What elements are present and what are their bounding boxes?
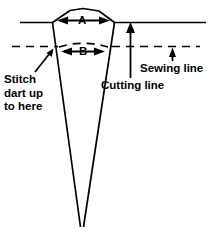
dimension-b-label: B [79,45,87,57]
sewing-line-label: Sewing line [140,62,203,76]
dimension-b-arrowhead-right [94,48,105,56]
stitch-note-line-3: to here [4,100,43,114]
stitch-note-pointer-arrow [35,49,54,73]
sewing-line-pointer-arrowhead [169,48,176,58]
diagram-canvas [0,0,221,239]
cutting-line-pointer-arrowhead [126,22,135,33]
dimension-b-arrowhead-left [61,48,72,56]
cutting-line-label: Cutting line [101,79,164,93]
dimension-a-label: A [78,14,86,26]
stitch-note-line-2: dart up [4,87,43,101]
sewing-line-dashed [12,43,200,47]
stitch-note-pointer-shaft [35,53,50,72]
stitch-note-line-1: Stitch [4,73,43,87]
dart-diagram: A B Stitch dart up to here Cutting line … [0,0,221,239]
stitch-note-label: Stitch dart up to here [4,73,43,114]
cutting-line-pointer-arrow [126,22,135,78]
sewing-line-pointer-arrow [169,48,176,62]
dart-outline [53,9,115,228]
